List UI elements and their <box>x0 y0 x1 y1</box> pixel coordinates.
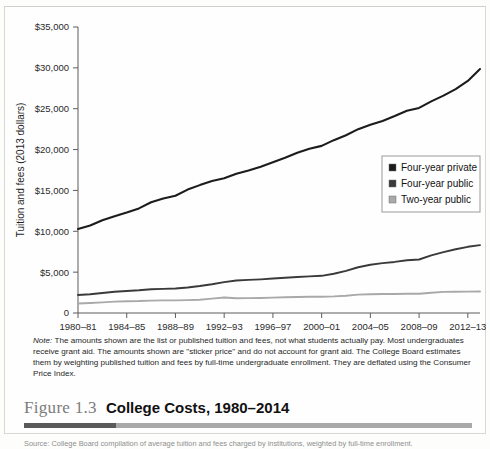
x-tick-label: 1996–97 <box>254 321 291 332</box>
chart-figure: 0$5,000$10,000$15,000$20,000$25,000$30,0… <box>4 8 486 332</box>
x-tick-label: 1984–85 <box>108 321 145 332</box>
x-tick-label: 2004–05 <box>352 321 389 332</box>
rule-light-segment <box>116 423 472 428</box>
rule-dark-segment <box>24 423 116 428</box>
y-tick-label: 0 <box>64 307 69 318</box>
legend-label: Two-year public <box>401 194 471 205</box>
scanned-page: 0$5,000$10,000$15,000$20,000$25,000$30,0… <box>0 0 490 449</box>
y-tick-label: $20,000 <box>35 144 69 155</box>
line-chart: 0$5,000$10,000$15,000$20,000$25,000$30,0… <box>4 8 486 332</box>
legend-swatch <box>389 180 396 187</box>
legend-swatch <box>389 164 396 171</box>
y-tick-label: $30,000 <box>35 62 69 73</box>
y-tick-label: $5,000 <box>40 267 69 278</box>
note-label: Note: <box>33 336 52 345</box>
x-tick-label: 2012–13 <box>449 321 486 332</box>
y-axis-title: Tuition and fees (2013 dollars) <box>15 103 26 238</box>
y-tick-label: $35,000 <box>35 21 69 32</box>
legend-label: Four-year public <box>401 178 473 189</box>
y-tick-label: $10,000 <box>35 226 69 237</box>
figure-source: Source: College Board compilation of ave… <box>24 439 476 448</box>
caption-row: Figure 1.3 College Costs, 1980–2014 <box>4 398 486 418</box>
y-tick-label: $25,000 <box>35 103 69 114</box>
figure-title: College Costs, 1980–2014 <box>106 399 289 416</box>
x-tick-label: 1992–93 <box>206 321 243 332</box>
figure-number: Figure 1.3 <box>24 398 97 418</box>
x-tick-label: 2000–01 <box>303 321 340 332</box>
series-line <box>78 291 480 303</box>
y-tick-label: $15,000 <box>35 185 69 196</box>
series-line <box>78 245 480 295</box>
figure-note: Note: The amounts shown are the list or … <box>33 336 471 380</box>
caption-rule <box>24 423 472 428</box>
x-tick-label: 1988–89 <box>157 321 194 332</box>
x-tick-label: 2008–09 <box>401 321 438 332</box>
legend-swatch <box>389 196 396 203</box>
legend-label: Four-year private <box>401 162 478 173</box>
note-text: The amounts shown are the list or publis… <box>33 336 471 378</box>
figure-caption: Figure 1.3 College Costs, 1980–2014 <box>4 398 486 428</box>
x-tick-label: 1980–81 <box>60 321 97 332</box>
